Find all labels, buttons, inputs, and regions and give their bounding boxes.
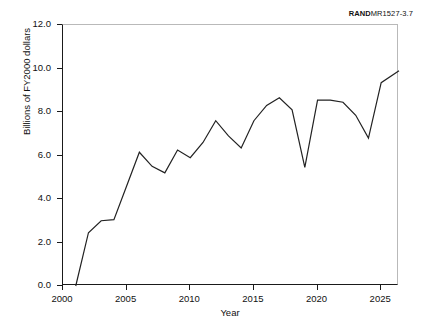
x-tick-label: 2020 [293,293,341,304]
y-tick-mark [57,24,62,25]
source-note: RANDMR1527-3.7 [349,9,413,18]
x-tick-label: 2000 [38,293,86,304]
y-tick-label: 6.0 [38,149,51,160]
line-series [63,25,399,286]
y-tick-label: 2.0 [38,236,51,247]
y-tick-mark [57,198,62,199]
x-tick-mark [253,285,254,290]
series-polyline [76,71,399,286]
x-tick-mark [189,285,190,290]
source-note-brand: RAND [349,9,371,18]
plot-area [62,24,398,285]
y-tick-mark [57,68,62,69]
chart-figure: RANDMR1527-3.7 Billions of FY2000 dollar… [0,0,427,330]
x-tick-label: 2025 [356,293,404,304]
y-tick-mark [57,111,62,112]
y-tick-label: 12.0 [33,18,52,29]
x-tick-label: 2015 [229,293,277,304]
x-tick-mark [317,285,318,290]
x-axis-title: Year [62,307,398,318]
y-tick-label: 0.0 [38,279,51,290]
y-tick-mark [57,155,62,156]
x-tick-label: 2010 [165,293,213,304]
y-tick-label: 8.0 [38,105,51,116]
y-tick-mark [57,242,62,243]
x-tick-mark [380,285,381,290]
y-axis-title: Billions of FY2000 dollars [21,0,32,172]
x-tick-mark [126,285,127,290]
x-tick-mark [62,285,63,290]
x-tick-label: 2005 [102,293,150,304]
source-note-id: MR1527-3.7 [371,9,413,18]
y-tick-label: 4.0 [38,192,51,203]
y-tick-label: 10.0 [33,62,52,73]
